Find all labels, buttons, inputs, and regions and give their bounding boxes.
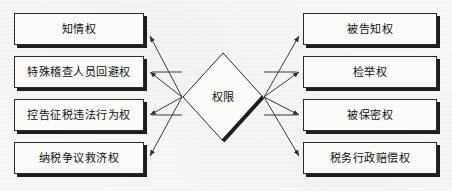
node-box-left-4[interactable]: 纳税争议救济权 — [14, 142, 144, 174]
node-label: 知情权 — [62, 24, 97, 35]
edge-hub-to-jianjuquan — [264, 72, 299, 97]
hub-label: 权限 — [212, 92, 235, 103]
node-box-left-1[interactable]: 知情权 — [14, 13, 144, 45]
node-label: 控告征税违法行为权 — [27, 110, 131, 121]
node-box-right-1[interactable]: 被告知权 — [303, 13, 437, 45]
node-box-right-3[interactable]: 被保密权 — [303, 99, 437, 131]
node-box-left-3[interactable]: 控告征税违法行为权 — [14, 99, 144, 131]
hub-node-diamond[interactable]: 权限 — [182, 52, 264, 142]
diagram-canvas: 知情权 特殊稽查人员回避权 控告征税违法行为权 纳税争议救济权 被告知权 检举权… — [0, 0, 452, 191]
edge-hub-to-zhiqingquan — [150, 36, 182, 97]
node-box-right-2[interactable]: 检举权 — [303, 56, 437, 88]
edge-hub-to-beigaozhiquan — [264, 36, 299, 97]
node-box-left-2[interactable]: 特殊稽查人员回避权 — [14, 56, 144, 88]
node-label: 检举权 — [353, 67, 388, 78]
node-label: 税务行政赔偿权 — [330, 153, 411, 164]
node-label: 纳税争议救济权 — [39, 153, 120, 164]
edge-hub-to-huibiquan — [150, 72, 182, 97]
node-label: 被告知权 — [347, 24, 393, 35]
node-box-right-4[interactable]: 税务行政赔偿权 — [303, 142, 437, 174]
node-label: 被保密权 — [347, 110, 393, 121]
node-label: 特殊稽查人员回避权 — [27, 67, 131, 78]
